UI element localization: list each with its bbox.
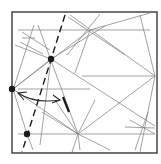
upper-reference-point-dot-icon	[48, 56, 54, 62]
left-edge-point-dot-icon	[9, 86, 15, 92]
crease-pattern-diagram	[0, 0, 161, 164]
lower-reference-point-dot-icon	[24, 131, 30, 137]
